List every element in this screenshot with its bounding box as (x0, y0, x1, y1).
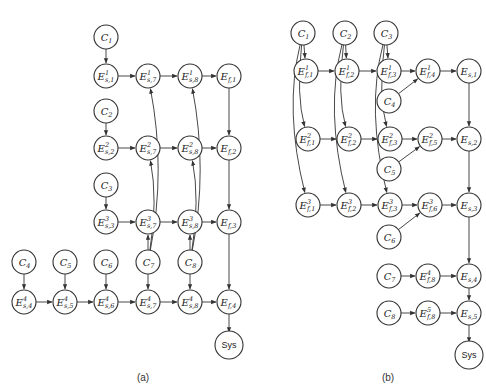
node-a-e2s7: E2s,7 (136, 136, 160, 160)
node-a-e3s3: E3s,3 (94, 210, 118, 234)
node-a-e4s8: E4s,8 (178, 290, 202, 314)
node-b-e2f5: E2f,5 (418, 127, 442, 151)
node-b-es3: Es,3 (457, 193, 481, 217)
node-label: Sys (221, 340, 237, 350)
node-a-e2s2: E2s,2 (94, 136, 118, 160)
panel-a: C1E1s,1E1s,7E1s,8Ef,1C2E2s,2E2s,7E2s,8Ef… (12, 25, 243, 383)
node-b-e2f1: E2f,1 (296, 127, 320, 151)
edge-arrow (399, 147, 420, 162)
node-a-e1s7: E1s,7 (136, 64, 160, 88)
node-b-e1f2: E1f,2 (335, 59, 359, 83)
node-b-es1: Es,1 (457, 59, 481, 83)
node-b-e2f2: E2f,2 (337, 127, 361, 151)
node-b-c3: C3 (374, 21, 398, 45)
node-b-e3f1: E3f,1 (296, 193, 320, 217)
node-b-es5: Es,5 (457, 301, 481, 325)
node-a-e4s7: E4s,7 (136, 290, 160, 314)
node-b-es2: Es,2 (457, 127, 481, 151)
node-a-c6: C6 (94, 250, 118, 274)
node-b-es4: Es,4 (457, 264, 481, 288)
node-a-ef4: Ef,4 (217, 290, 241, 314)
edge-arrow (150, 161, 154, 250)
node-a-c7: C7 (136, 250, 160, 274)
panel-b-caption: (b) (382, 372, 394, 383)
node-b-c5: C5 (377, 157, 401, 181)
node-a-e1s8: E1s,8 (178, 64, 202, 88)
node-b-e5f8: E5f,8 (416, 301, 440, 325)
diagram-canvas: C1E1s,1E1s,7E1s,8Ef,1C2E2s,2E2s,7E2s,8Ef… (0, 0, 486, 387)
node-a-e1s1: E1s,1 (94, 64, 118, 88)
panel-b: C1C2C3E1f,1E1f,2E1f,3E1f,4Es,1C4E2f,1E2f… (291, 21, 483, 383)
node-a-ef2: Ef,2 (217, 136, 241, 160)
node-b-e2f3: E2f,3 (378, 127, 402, 151)
panel-a-edges (24, 49, 229, 332)
node-b-c7: C7 (377, 264, 401, 288)
node-a-e3s8: E3s,8 (178, 210, 202, 234)
node-a-c8: C8 (178, 250, 202, 274)
node-b-e1f1: E1f,1 (294, 59, 318, 83)
node-a-sys: Sys (215, 331, 243, 359)
node-b-e3f3: E3f,3 (378, 193, 402, 217)
node-a-e4s4: E4s,4 (12, 290, 36, 314)
node-a-e3s7: E3s,7 (136, 210, 160, 234)
node-a-ef1: Ef,1 (217, 64, 241, 88)
node-a-c5: C5 (53, 250, 77, 274)
edge-arrow (304, 45, 305, 58)
edge-arrow (341, 45, 346, 127)
node-a-e4s6: E4s,6 (94, 290, 118, 314)
node-a-e2s8: E2s,8 (178, 136, 202, 160)
node-a-c1: C1 (94, 25, 118, 49)
node-a-c2: C2 (94, 99, 118, 123)
node-b-sys: Sys (455, 341, 483, 369)
edge-arrow (399, 79, 418, 94)
node-b-e1f3: E1f,3 (377, 59, 401, 83)
panel-a-caption: (a) (137, 372, 149, 383)
node-b-e3f6: E3f,6 (418, 193, 442, 217)
node-b-e1f4: E1f,4 (416, 59, 440, 83)
node-a-e4s5: E4s,5 (53, 290, 77, 314)
node-b-e4f8: E4f,8 (416, 264, 440, 288)
panel-b-nodes: C1C2C3E1f,1E1f,2E1f,3E1f,4Es,1C4E2f,1E2f… (291, 21, 483, 369)
node-label: Sys (461, 350, 477, 360)
node-b-c1: C1 (291, 21, 315, 45)
edge-arrow (387, 45, 388, 58)
node-a-ef3: Ef,3 (217, 210, 241, 234)
node-a-c4: C4 (12, 250, 36, 274)
edge-arrow (346, 45, 347, 58)
edge-arrow (398, 213, 419, 230)
edge-arrow (299, 45, 304, 127)
panel-a-nodes: C1E1s,1E1s,7E1s,8Ef,1C2E2s,2E2s,7E2s,8Ef… (12, 25, 243, 359)
node-b-c4: C4 (377, 89, 401, 113)
edge-arrow (382, 45, 387, 127)
edge-arrow (192, 161, 196, 250)
node-b-e3f2: E3f,2 (337, 193, 361, 217)
node-b-c2: C2 (333, 21, 357, 45)
panel-b-edges (293, 45, 469, 342)
node-b-c6: C6 (377, 225, 401, 249)
node-b-c8: C8 (377, 301, 401, 325)
node-a-c3: C3 (94, 173, 118, 197)
